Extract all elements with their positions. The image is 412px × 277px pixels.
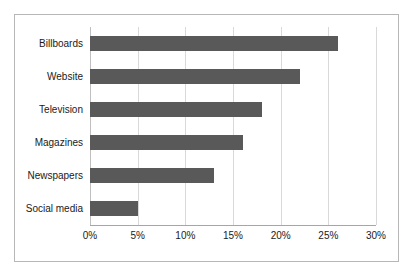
bar bbox=[90, 168, 214, 183]
chart-frame: BillboardsWebsiteTelevisionMagazinesNews… bbox=[14, 14, 399, 262]
bar-row: Newspapers bbox=[90, 159, 376, 192]
bar bbox=[90, 135, 243, 150]
x-tick-label: 10% bbox=[175, 229, 195, 243]
category-label: Magazines bbox=[35, 138, 83, 148]
bar bbox=[90, 69, 300, 84]
x-axis-line bbox=[90, 225, 376, 226]
category-label: Website bbox=[47, 72, 83, 82]
bar-series: BillboardsWebsiteTelevisionMagazinesNews… bbox=[90, 27, 376, 225]
bar bbox=[90, 102, 262, 117]
category-label: Social media bbox=[26, 204, 83, 214]
bar bbox=[90, 36, 338, 51]
category-label: Newspapers bbox=[27, 171, 83, 181]
bar-row: Website bbox=[90, 60, 376, 93]
gridline-30 bbox=[376, 27, 377, 225]
bar bbox=[90, 201, 138, 216]
x-tick-label: 25% bbox=[318, 229, 338, 243]
x-tick-label: 30% bbox=[366, 229, 386, 243]
category-label: Billboards bbox=[39, 39, 83, 49]
plot-area: BillboardsWebsiteTelevisionMagazinesNews… bbox=[90, 27, 376, 225]
category-label: Television bbox=[39, 105, 83, 115]
x-axis-tick-labels: 0%5%10%15%20%25%30% bbox=[90, 229, 376, 245]
bar-row: Billboards bbox=[90, 27, 376, 60]
x-tick-label: 15% bbox=[223, 229, 243, 243]
bar-row: Magazines bbox=[90, 126, 376, 159]
x-tick-label: 20% bbox=[271, 229, 291, 243]
x-tick-label: 5% bbox=[130, 229, 144, 243]
x-tick-label: 0% bbox=[83, 229, 97, 243]
bar-row: Social media bbox=[90, 192, 376, 225]
bar-row: Television bbox=[90, 93, 376, 126]
